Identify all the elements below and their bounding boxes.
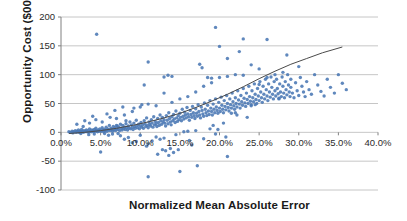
data-point <box>226 102 229 105</box>
data-point <box>307 88 310 91</box>
data-point <box>261 101 264 104</box>
data-point <box>162 75 165 78</box>
x-tick-label: 25.0% <box>239 137 279 148</box>
data-point <box>242 74 245 77</box>
data-point <box>292 96 295 99</box>
data-point <box>285 53 288 56</box>
data-point <box>204 108 207 111</box>
data-point <box>199 116 202 119</box>
data-point <box>280 75 283 78</box>
data-point <box>218 45 221 48</box>
data-point <box>249 99 252 102</box>
data-point <box>185 106 188 109</box>
data-point <box>319 90 322 93</box>
data-point <box>244 105 247 108</box>
data-point <box>277 97 280 100</box>
data-point <box>250 89 253 92</box>
data-point <box>226 57 229 60</box>
data-point <box>214 26 217 29</box>
data-point <box>115 124 118 127</box>
data-point <box>234 102 237 105</box>
data-points-group <box>67 26 348 179</box>
data-point <box>220 104 223 107</box>
data-point <box>177 148 180 151</box>
data-point <box>282 91 285 94</box>
data-point <box>265 88 268 91</box>
data-point <box>269 95 272 98</box>
data-point <box>87 133 90 136</box>
data-point <box>279 90 282 93</box>
x-tick-label: 5.0% <box>81 137 121 148</box>
data-point <box>269 75 272 78</box>
data-point <box>230 112 233 115</box>
data-point <box>146 102 149 105</box>
data-point <box>156 153 159 156</box>
data-point <box>235 105 238 108</box>
data-point <box>265 38 268 41</box>
data-point <box>268 90 271 93</box>
data-point <box>178 97 181 100</box>
data-point <box>253 103 256 106</box>
data-point <box>337 73 340 76</box>
data-point <box>258 80 261 83</box>
data-point <box>313 73 316 76</box>
data-point <box>341 82 344 85</box>
data-point <box>116 132 119 135</box>
plot-canvas <box>0 0 407 221</box>
data-point <box>206 104 209 107</box>
data-point <box>170 75 173 78</box>
data-point <box>200 109 203 112</box>
data-point <box>245 91 248 94</box>
data-point <box>222 111 225 114</box>
data-point <box>146 175 149 178</box>
data-point <box>261 85 264 88</box>
data-point <box>75 123 78 126</box>
data-point <box>226 75 229 78</box>
data-point <box>289 86 292 89</box>
data-point <box>202 114 205 117</box>
y-tick-label: -50 <box>21 155 55 166</box>
x-tick-label: 0.0% <box>41 137 81 148</box>
data-point <box>254 98 257 101</box>
data-point <box>170 101 173 104</box>
data-point <box>191 105 194 108</box>
data-point <box>235 113 238 116</box>
data-point <box>167 111 170 114</box>
data-point <box>303 95 306 98</box>
data-point <box>256 87 259 90</box>
data-point <box>300 85 303 88</box>
data-point <box>182 130 185 133</box>
data-point <box>257 99 260 102</box>
data-point <box>281 71 284 74</box>
data-point <box>135 119 138 122</box>
data-point <box>284 88 287 91</box>
data-point <box>108 116 111 119</box>
data-point <box>210 81 213 84</box>
data-point <box>234 96 237 99</box>
data-point <box>246 98 249 101</box>
x-tick-label: 40.0% <box>358 137 398 148</box>
data-point <box>295 89 298 92</box>
data-point <box>223 99 226 102</box>
data-point <box>289 78 292 81</box>
data-point <box>152 115 155 118</box>
data-point <box>217 101 220 104</box>
data-point <box>211 102 214 105</box>
data-point <box>207 109 210 112</box>
data-point <box>257 67 260 70</box>
data-point <box>226 155 229 158</box>
data-point <box>167 154 170 157</box>
data-point <box>132 106 135 109</box>
data-point <box>172 151 175 154</box>
x-tick-label: 20.0% <box>200 137 240 148</box>
data-point <box>174 109 177 112</box>
trendline-group <box>69 47 342 134</box>
data-point <box>197 110 200 113</box>
data-point <box>248 95 251 98</box>
data-point <box>238 106 241 109</box>
data-point <box>105 112 108 115</box>
data-point <box>164 149 167 152</box>
data-point <box>206 76 209 79</box>
data-point <box>123 113 126 116</box>
data-point <box>95 33 98 36</box>
